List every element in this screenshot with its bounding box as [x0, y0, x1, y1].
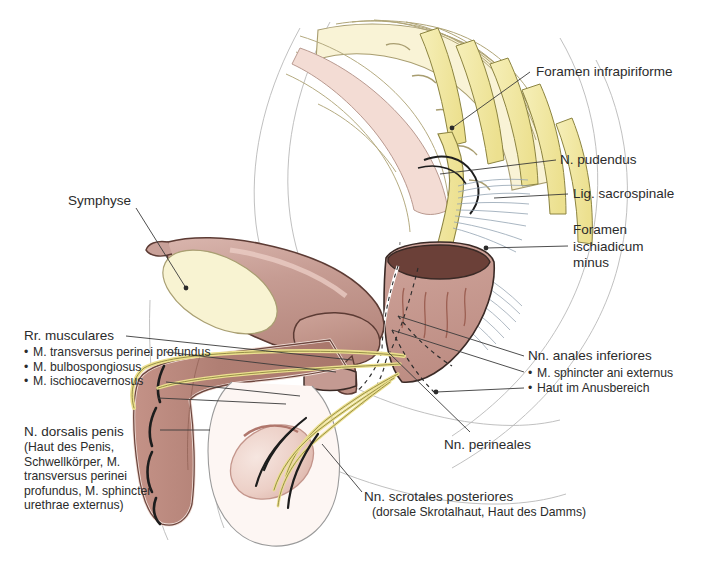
list-item-label: M. bulbospongiosus [33, 360, 141, 374]
label-nn-perineales: Nn. perineales [444, 437, 531, 453]
list-item-label: M. sphincter ani externus [537, 366, 673, 380]
label-n-dorsalis-penis: N. dorsalis penis [24, 424, 124, 440]
lig-sacrospinale [453, 179, 530, 252]
list-item-label: M. ischiocavernosus [33, 374, 143, 388]
label-nn-anales-inferiores-items: •M. sphincter ani externus •Haut im Anus… [528, 366, 673, 395]
label-lig-sacrospinale: Lig. sacrospinale [573, 186, 674, 202]
label-nn-scrotales-posteriores: Nn. scrotales posteriores [364, 489, 513, 505]
list-item-label: M. transversus perinei profundus [33, 345, 210, 359]
list-item: •M. ischiocavernosus [24, 374, 210, 389]
rectum [382, 242, 494, 382]
list-item: •Haut im Anusbereich [528, 381, 673, 396]
list-item: •M. bulbospongiosus [24, 360, 210, 375]
list-item-label: Haut im Anusbereich [537, 381, 649, 395]
label-nn-scrotales-posteriores-note: (dorsale Skrotalhaut, Haut des Damms) [372, 505, 586, 520]
label-foramen-infrapiriforme: Foramen infrapiriforme [536, 64, 673, 80]
list-item: •M. sphincter ani externus [528, 366, 673, 381]
label-nn-anales-inferiores: Nn. anales inferiores [528, 348, 652, 364]
label-symphyse: Symphyse [68, 193, 131, 209]
label-rr-musculares: Rr. musculares [24, 328, 114, 344]
label-foramen-ischiadicum-minus: Foramen ischiadicum minus [573, 222, 644, 272]
piriformis-muscle [292, 48, 448, 215]
label-rr-musculares-items: •M. transversus perinei profundus •M. bu… [24, 345, 210, 389]
label-n-dorsalis-penis-note: (Haut des Penis, Schwellkörper, M. trans… [24, 440, 174, 513]
list-item: •M. transversus perinei profundus [24, 345, 210, 360]
label-n-pudendus: N. pudendus [560, 152, 637, 168]
